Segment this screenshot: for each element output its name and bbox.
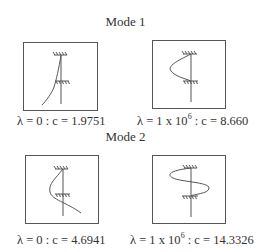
beam-deflection-diagram <box>153 156 227 225</box>
mode-2-title: Mode 2 <box>0 129 257 145</box>
mode-1-panel-lambda-1e6 <box>152 40 226 109</box>
beam-deflection-diagram <box>153 41 227 110</box>
mode-1-label-lambda-0: λ = 0 : c = 1.9751 <box>17 114 106 129</box>
mode-2-panel-lambda-1e6 <box>152 155 226 224</box>
mode-2-label-lambda-1e6: λ = 1 x 106 : c = 14.3326 <box>130 233 254 248</box>
mode-2-label-lambda-0: λ = 0 : c = 4.6941 <box>17 233 106 248</box>
mode-1-label-lambda-1e6: λ = 1 x 106 : c = 8.660 <box>137 114 248 129</box>
beam-deflection-diagram <box>24 43 99 112</box>
mode-1-title: Mode 1 <box>0 14 257 30</box>
beam-deflection-diagram <box>26 156 100 225</box>
mode-1-panel-lambda-0 <box>23 42 98 111</box>
mode-shape-curve <box>50 169 81 213</box>
mode-2-panel-lambda-0 <box>25 155 99 224</box>
mode-shape-curve <box>170 54 191 81</box>
mode-shape-curve <box>42 55 61 105</box>
mode-shape-curve <box>170 168 209 196</box>
